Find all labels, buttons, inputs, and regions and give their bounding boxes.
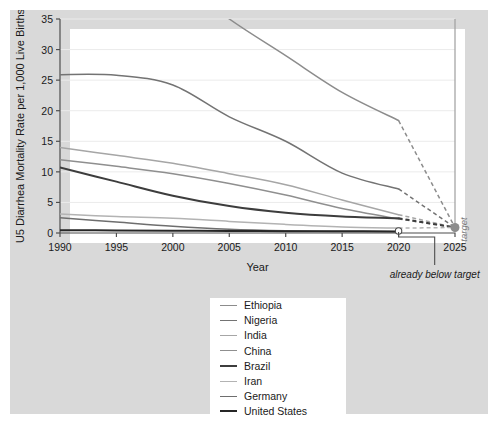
legend-label: Iran xyxy=(244,376,262,387)
y-tick-label: 5 xyxy=(47,196,53,208)
legend-item-nigeria[interactable]: Nigeria xyxy=(210,313,346,328)
y-tick-label: 25 xyxy=(41,74,53,86)
figure-panel: 0510152025303519901995200020052010201520… xyxy=(10,10,488,414)
legend-item-germany[interactable]: Germany xyxy=(210,389,346,404)
legend-item-india[interactable]: India xyxy=(210,328,346,343)
legend-swatch-icon xyxy=(220,410,237,412)
legend-swatch-icon xyxy=(220,305,237,306)
legend-label: Brazil xyxy=(244,361,270,372)
series-line-united-states xyxy=(60,230,399,231)
chart-legend: EthiopiaNigeriaIndiaChinaBrazilIranGerma… xyxy=(210,298,346,419)
legend-swatch-icon xyxy=(220,396,237,397)
legend-label: United States xyxy=(244,406,307,417)
legend-item-ethiopia[interactable]: Ethiopia xyxy=(210,298,346,313)
x-tick-label: 1990 xyxy=(48,241,72,253)
legend-item-brazil[interactable]: Brazil xyxy=(210,358,346,373)
legend-swatch-icon xyxy=(220,365,237,367)
legend-item-iran[interactable]: Iran xyxy=(210,373,346,388)
series-line-ethiopia xyxy=(60,10,399,121)
x-tick-label: 2010 xyxy=(274,241,298,253)
legend-swatch-icon xyxy=(220,335,237,336)
projection-line-ethiopia xyxy=(399,120,455,227)
x-tick-label: 2000 xyxy=(161,241,185,253)
series-line-china xyxy=(60,160,399,219)
x-tick-label: 2015 xyxy=(330,241,354,253)
target-label: target xyxy=(458,217,469,242)
legend-item-united-states[interactable]: United States xyxy=(210,404,346,419)
legend-swatch-icon xyxy=(220,320,237,321)
projection-line-iran xyxy=(399,227,455,228)
legend-label: Germany xyxy=(244,391,287,402)
legend-label: India xyxy=(244,330,267,341)
legend-label: Ethiopia xyxy=(244,300,282,311)
series-group xyxy=(60,10,455,232)
below-target-annotation: already below target xyxy=(390,269,481,280)
legend-swatch-icon xyxy=(220,381,237,382)
x-tick-label: 2005 xyxy=(218,241,242,253)
y-tick-label: 20 xyxy=(41,105,53,117)
y-tick-label: 15 xyxy=(41,135,53,147)
legend-swatch-icon xyxy=(220,350,237,351)
chart-page: 0510152025303519901995200020052010201520… xyxy=(0,0,500,428)
x-tick-label: 1995 xyxy=(105,241,129,253)
x-tick-label: 2020 xyxy=(387,241,411,253)
y-axis-title: U5 Diarrhea Mortality Rate per 1,000 Liv… xyxy=(14,10,26,243)
legend-label: China xyxy=(244,346,271,357)
y-tick-label: 35 xyxy=(41,13,53,25)
legend-item-china[interactable]: China xyxy=(210,343,346,358)
x-axis-title: Year xyxy=(246,261,269,273)
y-tick-label: 30 xyxy=(41,44,53,56)
y-tick-label: 0 xyxy=(47,227,53,239)
x-tick-label: 2025 xyxy=(443,241,467,253)
legend-label: Nigeria xyxy=(244,315,277,326)
y-tick-label: 10 xyxy=(41,166,53,178)
